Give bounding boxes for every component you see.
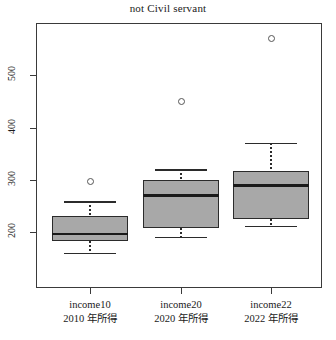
whisker-upper-income22 bbox=[270, 143, 271, 171]
whisker-cap-lower-income10 bbox=[64, 253, 116, 254]
x-tick-income22 bbox=[271, 288, 272, 294]
median-line-income22 bbox=[233, 184, 309, 187]
whisker-cap-lower-income20 bbox=[155, 237, 207, 238]
y-tick-label-500: 500 bbox=[6, 57, 17, 91]
whisker-lower-income10 bbox=[89, 241, 90, 253]
outlier-income20-0 bbox=[178, 98, 185, 105]
whisker-cap-upper-income22 bbox=[245, 143, 297, 144]
y-tick-label-200: 200 bbox=[6, 214, 17, 248]
y-tick-label-300: 300 bbox=[6, 162, 17, 196]
whisker-cap-upper-income20 bbox=[155, 169, 207, 170]
y-tick-400 bbox=[30, 128, 36, 129]
chart-root: not Civil servant 500 400 300 200 income… bbox=[0, 0, 336, 340]
y-tick-200 bbox=[30, 232, 36, 233]
whisker-lower-income20 bbox=[180, 228, 181, 236]
x-label-income22-line1: income22 bbox=[216, 298, 326, 312]
plot-frame bbox=[36, 23, 322, 288]
box-income20 bbox=[143, 180, 219, 229]
box-income22 bbox=[233, 171, 309, 220]
y-tick-label-400: 400 bbox=[6, 110, 17, 144]
y-tick-300 bbox=[30, 180, 36, 181]
x-tick-income20 bbox=[181, 288, 182, 294]
x-label-income22: income22 2022 年所得 bbox=[216, 298, 326, 326]
y-tick-500 bbox=[30, 75, 36, 76]
outlier-income10-0 bbox=[87, 178, 94, 185]
outlier-income22-0 bbox=[268, 35, 275, 42]
x-tick-income10 bbox=[90, 288, 91, 294]
whisker-cap-upper-income10 bbox=[64, 201, 116, 202]
median-line-income20 bbox=[143, 194, 219, 197]
whisker-cap-lower-income22 bbox=[245, 226, 297, 227]
box-income10 bbox=[52, 216, 128, 241]
x-label-income22-line2: 2022 年所得 bbox=[216, 312, 326, 326]
whisker-upper-income20 bbox=[180, 169, 181, 179]
chart-title: not Civil servant bbox=[0, 2, 336, 14]
median-line-income10 bbox=[52, 233, 128, 236]
whisker-upper-income10 bbox=[89, 201, 90, 216]
